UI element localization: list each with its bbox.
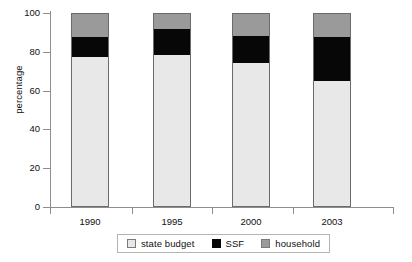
- legend-item-household[interactable]: household: [261, 238, 320, 249]
- bar-segment-1990-household: [71, 13, 109, 37]
- y-tick-label: 20: [8, 162, 40, 173]
- x-tick-mark: [393, 207, 394, 214]
- y-tick-mark: [43, 91, 50, 92]
- legend-item-SSF[interactable]: SSF: [212, 238, 245, 249]
- x-tick-mark: [212, 207, 213, 214]
- x-tick-label-2003: 2003: [302, 216, 362, 227]
- bar-1990: [71, 13, 109, 207]
- x-tick-label-2000: 2000: [221, 216, 281, 227]
- x-axis-line: [43, 207, 393, 208]
- bar-1995: [153, 13, 191, 207]
- household-swatch: [261, 239, 270, 248]
- bar-segment-1995-state-budget: [153, 55, 191, 207]
- x-tick-mark: [50, 207, 51, 214]
- x-tick-label-1990: 1990: [60, 216, 120, 227]
- y-tick-mark: [43, 13, 50, 14]
- legend-label: SSF: [226, 238, 245, 249]
- bar-2003: [313, 13, 351, 207]
- chart-legend: state budgetSSFhousehold: [117, 234, 330, 253]
- y-tick-mark: [43, 168, 50, 169]
- y-tick-mark: [43, 52, 50, 53]
- state-budget-swatch: [127, 239, 136, 248]
- x-tick-label-1995: 1995: [142, 216, 202, 227]
- y-tick-mark: [43, 129, 50, 130]
- ssf-swatch: [212, 239, 221, 248]
- y-tick-label: 100: [8, 7, 40, 18]
- plot-area: [50, 13, 393, 207]
- bar-segment-2003-state-budget: [313, 81, 351, 207]
- bar-2000: [232, 13, 270, 207]
- stacked-bar-chart: percentage 020406080100 1990199520002003…: [0, 0, 412, 262]
- bar-segment-2000-state-budget: [232, 63, 270, 207]
- bar-segment-1990-SSF: [71, 37, 109, 56]
- y-tick-mark: [43, 207, 50, 208]
- y-tick-label: 60: [8, 85, 40, 96]
- bar-segment-2000-SSF: [232, 36, 270, 63]
- bar-segment-1995-SSF: [153, 29, 191, 55]
- legend-label: state budget: [141, 238, 195, 249]
- x-tick-mark: [132, 207, 133, 214]
- legend-label: household: [275, 238, 320, 249]
- bar-segment-2000-household: [232, 13, 270, 36]
- x-tick-mark: [293, 207, 294, 214]
- bar-segment-1990-state-budget: [71, 57, 109, 207]
- bar-segment-2003-household: [313, 13, 351, 37]
- bar-segment-2003-SSF: [313, 37, 351, 81]
- y-tick-label: 80: [8, 46, 40, 57]
- legend-item-state-budget[interactable]: state budget: [127, 238, 195, 249]
- y-tick-label: 40: [8, 123, 40, 134]
- y-tick-label: 0: [8, 201, 40, 212]
- bar-segment-1995-household: [153, 13, 191, 29]
